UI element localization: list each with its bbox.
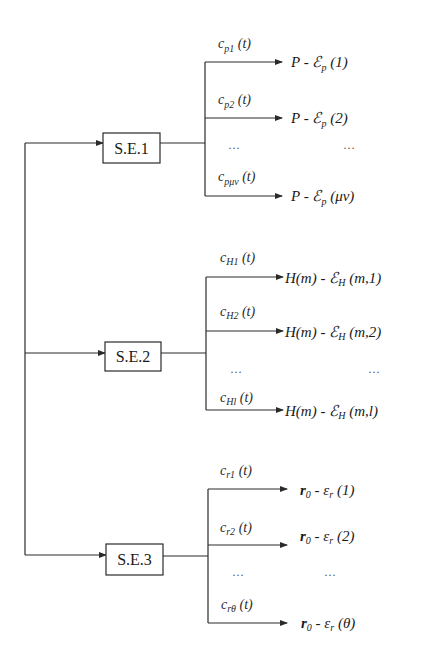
se1-output-3: P - ℰp (μν) [290,188,354,207]
se3-output-1: r0 - εr (1) [300,482,354,500]
se1-output-2: P - ℰp (2) [290,110,348,129]
se1-output-1: P - ℰp (1) [290,54,348,73]
se3-ellipsis-left: … [232,565,244,579]
se1-ellipsis-left: … [228,138,240,152]
se2-branch-label-1: cH1 (t) [220,250,256,267]
se2-output-1: H(m) - ℰH (m,1) [284,270,381,288]
group-se3: S.E.3 cr1 (t) r0 - εr (1) cr2 (t) r0 - ε… [106,463,355,633]
se1-branch-label-1: cp1 (t) [218,36,251,54]
se1-branch-label-2: cp2 (t) [218,92,251,110]
se3-label: S.E.3 [117,551,152,568]
se1-ellipsis-right: … [343,138,355,152]
se2-label: S.E.2 [116,348,151,365]
se2-ellipsis-right: … [368,362,380,376]
se3-output-3: r0 - εr (θ) [301,615,355,633]
se3-output-2: r0 - εr (2) [300,528,354,546]
se2-branch-label-2: cH2 (t) [220,304,256,321]
se2-output-2: H(m) - ℰH (m,2) [284,324,381,342]
se2-output-3: H(m) - ℰH (m,l) [284,403,378,421]
se2-branch-label-3: cHl (t) [220,390,253,407]
input-trunk [25,143,106,555]
se1-label: S.E.1 [114,140,149,157]
se3-branch-label-3: crθ (t) [221,597,253,614]
se3-branch-label-2: cr2 (t) [220,520,252,537]
group-se1: S.E.1 cp1 (t) P - ℰp (1) cp2 (t) P - ℰp … [103,36,355,207]
group-se2: S.E.2 cH1 (t) H(m) - ℰH (m,1) cH2 (t) H(… [105,250,381,421]
se3-branch-label-1: cr1 (t) [220,463,252,480]
se2-ellipsis-left: … [230,362,242,376]
se3-ellipsis-right: … [324,565,336,579]
se1-branch-label-3: cpμν (t) [218,169,256,187]
block-diagram: S.E.1 cp1 (t) P - ℰp (1) cp2 (t) P - ℰp … [0,0,425,664]
